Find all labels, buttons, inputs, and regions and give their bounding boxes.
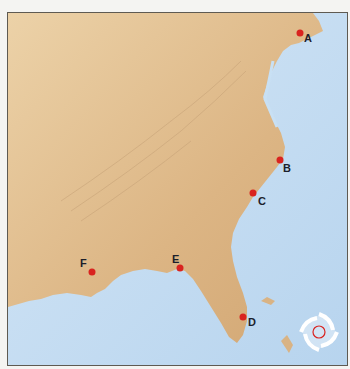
location-marker-d [240, 314, 247, 321]
map-frame [7, 12, 348, 366]
location-marker-c [250, 190, 257, 197]
location-label-c: C [258, 196, 266, 207]
location-marker-e [177, 265, 184, 272]
location-label-f: F [80, 258, 87, 269]
map-canvas [8, 13, 348, 366]
location-marker-a [297, 30, 304, 37]
location-label-a: A [304, 33, 312, 44]
location-label-e: E [172, 254, 179, 265]
location-marker-f [89, 269, 96, 276]
location-label-b: B [283, 163, 291, 174]
location-label-d: D [248, 317, 256, 328]
